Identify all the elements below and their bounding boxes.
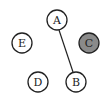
node-a: A (47, 10, 67, 30)
node-c-label: C (85, 37, 93, 50)
node-a-label: A (52, 14, 62, 27)
node-d: D (28, 72, 48, 92)
node-b-label: B (72, 76, 80, 89)
node-d-label: D (34, 76, 43, 89)
node-b: B (66, 72, 86, 92)
node-e-label: E (18, 37, 26, 50)
node-c: C (79, 33, 99, 53)
edge-a-b (59, 30, 73, 72)
graph-diagram: A E C D B (0, 0, 110, 104)
node-e: E (12, 33, 32, 53)
